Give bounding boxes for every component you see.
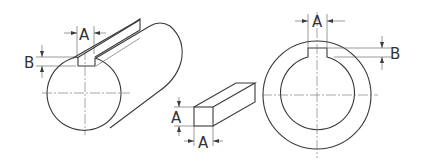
arrow-icon (327, 19, 333, 23)
arrow-icon (94, 31, 100, 35)
key-label-a-width: A (198, 134, 209, 152)
arrow-icon (40, 51, 44, 57)
shaft-view: A B (24, 19, 182, 135)
arrow-icon (380, 57, 384, 63)
arrow-icon (177, 101, 181, 107)
hub-bore-with-keyway (281, 48, 355, 130)
arrow-icon (71, 31, 77, 35)
key-side-face (213, 83, 255, 126)
shaft-label-a: A (79, 26, 90, 44)
key-front-face (194, 107, 213, 126)
hub-view: A B (262, 12, 400, 158)
key-top-face (194, 83, 255, 107)
hub-label-a: A (312, 13, 323, 31)
arrow-icon (302, 19, 308, 23)
arrow-icon (188, 139, 194, 143)
shaft-label-b: B (24, 54, 34, 72)
key-label-a-height: A (171, 109, 182, 127)
keyway-diagram: A B A A (0, 0, 422, 167)
arrow-icon (40, 66, 44, 72)
arrow-icon (380, 42, 384, 48)
keyway-end (138, 19, 140, 30)
key-view: A A (171, 83, 255, 152)
shaft-front-face (47, 57, 121, 130)
hub-label-b: B (390, 45, 400, 63)
arrow-icon (213, 139, 219, 143)
